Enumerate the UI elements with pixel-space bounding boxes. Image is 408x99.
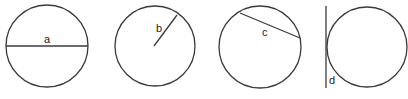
circle-parts-diagram: a b c d [0, 0, 408, 99]
chord-line [240, 13, 300, 38]
figure-tangent: d [326, 6, 407, 88]
label-a: a [44, 33, 51, 45]
figure-chord: c [219, 6, 301, 88]
label-c: c [262, 26, 268, 38]
circle [219, 6, 301, 88]
figure-diameter: a [6, 5, 88, 87]
circle [115, 6, 195, 86]
figure-radius: b [115, 6, 195, 86]
label-d: d [329, 74, 335, 86]
label-b: b [156, 22, 162, 34]
circle [327, 7, 407, 87]
